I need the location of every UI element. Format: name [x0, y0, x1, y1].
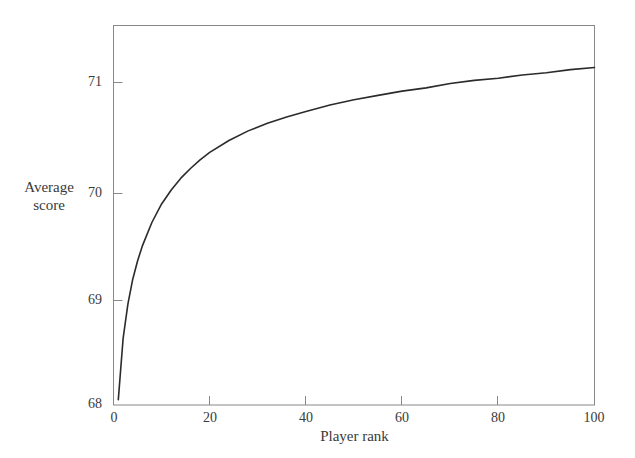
average-score-curve [118, 67, 594, 399]
plot-frame [114, 26, 595, 406]
chart-figure: Average score Player rank 71 70 69 68 0 … [0, 0, 635, 458]
x-tick-marks [210, 396, 498, 405]
plot-area [0, 0, 635, 458]
y-tick-marks [114, 83, 123, 301]
